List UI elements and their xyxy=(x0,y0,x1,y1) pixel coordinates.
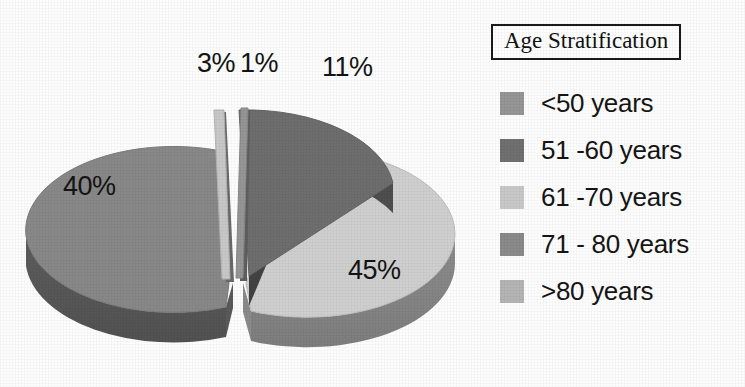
slice-label-51-60: 11% xyxy=(322,52,373,83)
legend-item-under-50[interactable]: <50 years xyxy=(487,80,737,127)
legend-item-label: <50 years xyxy=(541,88,653,119)
slice-label-71-80: 40% xyxy=(63,171,116,202)
legend-swatch-icon xyxy=(500,280,524,303)
pie-slice-71-80[interactable] xyxy=(26,146,233,342)
legend-swatch-icon xyxy=(500,139,524,162)
slice-label-61-70: 45% xyxy=(348,255,401,286)
legend-item-label: 61 -70 years xyxy=(541,182,682,213)
pie-chart-figure: 3% 1% 11% 40% 45% Age Stratification <50… xyxy=(0,0,745,387)
legend-swatch-icon xyxy=(500,233,524,256)
legend-swatch-icon xyxy=(500,92,524,115)
legend-item-over-80[interactable]: >80 years xyxy=(487,268,737,315)
slice-label-over-80: 3% xyxy=(197,48,235,79)
pie-chart-area: 3% 1% 11% 40% 45% xyxy=(0,0,490,387)
legend-item-label: 71 - 80 years xyxy=(541,229,689,260)
legend-item-label: 51 -60 years xyxy=(541,135,682,166)
slice-label-under-50: 1% xyxy=(240,48,278,79)
legend-title-box: Age Stratification xyxy=(491,24,681,60)
legend-item-51-60[interactable]: 51 -60 years xyxy=(487,127,737,174)
legend-item-61-70[interactable]: 61 -70 years xyxy=(487,174,737,221)
legend-items: <50 years 51 -60 years 61 -70 years 71 -… xyxy=(487,80,737,315)
legend-swatch-icon xyxy=(500,186,524,209)
legend-title: Age Stratification xyxy=(504,29,668,53)
legend-item-71-80[interactable]: 71 - 80 years xyxy=(487,221,737,268)
legend-item-label: >80 years xyxy=(541,276,653,307)
legend: Age Stratification <50 years 51 -60 year… xyxy=(487,24,737,315)
